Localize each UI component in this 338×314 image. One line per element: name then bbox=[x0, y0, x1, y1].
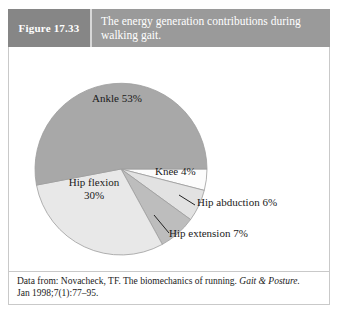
pie-label-hip-extension: Hip extension 7% bbox=[169, 227, 248, 240]
pie-label-hip-flexion-line1: Hip flexion bbox=[69, 176, 119, 188]
pie-label-ankle: Ankle 53% bbox=[92, 92, 142, 105]
pie-label-hip-flexion-line2: 30% bbox=[84, 189, 104, 201]
source-journal-name: Gait & Posture. bbox=[239, 276, 300, 286]
figure-card: Figure 17.33 The energy generation contr… bbox=[8, 9, 330, 305]
figure-number-label: Figure 17.33 bbox=[19, 22, 80, 34]
figure-number-box: Figure 17.33 bbox=[8, 9, 92, 47]
source-text-prefix: Data from: Novacheck, TF. The biomechani… bbox=[17, 276, 239, 286]
source-line-1: Data from: Novacheck, TF. The biomechani… bbox=[17, 276, 321, 288]
source-citation-block: Data from: Novacheck, TF. The biomechani… bbox=[8, 271, 330, 305]
figure-header-band: Figure 17.33 The energy generation contr… bbox=[8, 9, 330, 47]
figure-caption-text: The energy generation contributions duri… bbox=[101, 14, 322, 43]
pie-chart-area: Ankle 53% Knee 4% Hip flexion 30% Hip ab… bbox=[8, 47, 330, 271]
pie-label-hip-flexion: Hip flexion 30% bbox=[57, 176, 131, 202]
source-line-2: Jan 1998;7(1):77–95. bbox=[17, 288, 321, 300]
pie-label-hip-abduction: Hip abduction 6% bbox=[197, 196, 277, 209]
figure-caption-box: The energy generation contributions duri… bbox=[92, 9, 330, 47]
pie-label-knee: Knee 4% bbox=[155, 165, 196, 178]
